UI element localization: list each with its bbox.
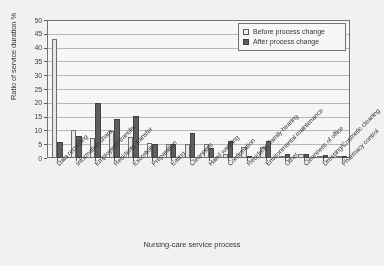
legend-label-after: After process change <box>253 37 319 46</box>
legend-swatch-before-icon <box>243 29 249 35</box>
x-axis-tick-label: Other <box>283 151 299 167</box>
legend-item-after: After process change <box>243 37 342 46</box>
chart-figure: 05101520253035404550 Ratio of service du… <box>0 0 384 266</box>
x-axis-tick-label: Eating <box>169 149 187 167</box>
x-axis-title: Nursing-care service process <box>0 240 384 249</box>
legend-swatch-after-icon <box>243 39 249 45</box>
legend-item-before: Before process change <box>243 27 342 36</box>
legend-label-before: Before process change <box>253 27 325 36</box>
chart-legend: Before process change After process chan… <box>238 23 346 51</box>
